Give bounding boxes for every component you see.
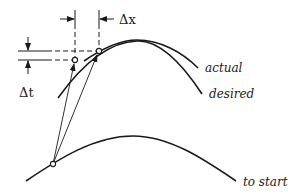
vector-to-desired	[53, 55, 97, 164]
dashed-guides	[47, 24, 99, 60]
start-point-marker	[50, 161, 55, 166]
actual-point-marker	[96, 48, 101, 53]
delta-t-label: Δt	[19, 85, 34, 100]
vector-to-actual	[53, 64, 74, 164]
actual-label: actual	[205, 61, 243, 75]
dimension-lines	[18, 10, 99, 60]
desired-point-marker	[72, 57, 77, 62]
desired-label: desired	[209, 87, 255, 101]
to-start-label: to start	[243, 175, 288, 189]
desired-curve	[58, 41, 202, 98]
trajectory-diagram: Δx Δt actual desired to start	[0, 0, 296, 196]
delta-x-label: Δx	[119, 12, 136, 27]
